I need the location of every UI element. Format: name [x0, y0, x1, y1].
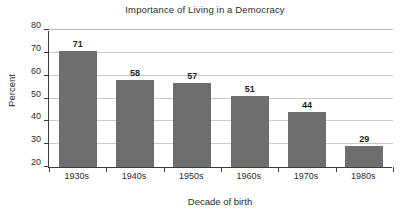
bar-value-label: 29 [359, 135, 369, 144]
bar[interactable]: 57 [173, 83, 211, 167]
y-axis-tick-label: 70 [13, 44, 41, 53]
y-axis-tick [44, 52, 49, 53]
bar[interactable]: 51 [231, 96, 269, 167]
y-axis-tick [44, 120, 49, 121]
y-axis-tick-label: 50 [13, 90, 41, 99]
y-axis-tick [44, 143, 49, 144]
gridline [49, 75, 393, 76]
gridline [49, 98, 393, 99]
plot-area: 80706050403020 715857514429 [48, 31, 392, 168]
x-axis-category-label: 1940s [105, 172, 162, 181]
chart-title: Importance of Living in a Democracy [0, 4, 410, 15]
gridline [49, 120, 393, 121]
x-axis-tick [393, 167, 394, 172]
bar[interactable]: 58 [116, 80, 154, 167]
y-axis-tick-label: 80 [13, 21, 41, 30]
gridline [49, 29, 393, 30]
x-axis-category-label: 1960s [220, 172, 277, 181]
bar-value-label: 44 [302, 101, 312, 110]
bar[interactable]: 44 [288, 112, 326, 167]
gridline [49, 52, 393, 53]
y-axis-tick [44, 75, 49, 76]
bar[interactable]: 29 [345, 146, 383, 167]
x-axis-category-label: 1950s [163, 172, 220, 181]
y-axis-tick [44, 29, 49, 30]
x-axis-category-label: 1980s [335, 172, 392, 181]
y-axis-tick [44, 98, 49, 99]
bar-value-label: 71 [73, 40, 83, 49]
x-axis-category-label: 1930s [48, 172, 105, 181]
bar-value-label: 57 [187, 72, 197, 81]
x-axis-title: Decade of birth [48, 196, 392, 207]
bar[interactable]: 71 [59, 51, 97, 167]
y-axis-tick-label: 20 [13, 158, 41, 167]
chart-figure: Importance of Living in a Democracy Perc… [0, 0, 410, 220]
y-axis-tick-label: 40 [13, 112, 41, 121]
y-axis-tick-label: 60 [13, 67, 41, 76]
y-axis-tick-label: 30 [13, 135, 41, 144]
gridline [49, 143, 393, 144]
bar-value-label: 51 [245, 85, 255, 94]
bar-value-label: 58 [130, 69, 140, 78]
x-axis-category-label: 1970s [277, 172, 334, 181]
